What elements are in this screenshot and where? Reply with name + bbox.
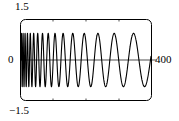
chart-screenshot: 1.5 0 −1.5 400 (0, 0, 179, 121)
chirp-plot (0, 0, 179, 121)
x-axis-max-label: 400 (155, 54, 172, 65)
y-axis-zero-label: 0 (8, 54, 14, 65)
y-axis-min-label: −1.5 (9, 105, 29, 116)
y-axis-max-label: 1.5 (15, 1, 29, 12)
